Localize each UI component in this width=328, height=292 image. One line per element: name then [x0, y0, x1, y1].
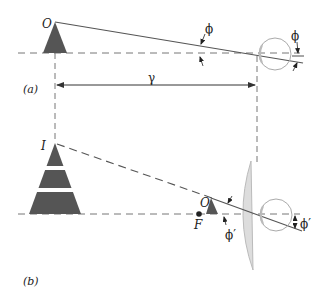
phi-prime-arrow-top-b	[228, 196, 232, 203]
phi-prime-arrow-bottom-b	[224, 217, 226, 225]
virtual-image-triangle	[25, 143, 85, 214]
phi-label-a: ϕ	[205, 22, 213, 36]
distance-label: γ	[148, 71, 155, 85]
object-label-a: O	[42, 17, 52, 31]
panel-a-label: (a)	[23, 83, 38, 96]
panel-b: I F O ϕ′ ϕ′ (b)	[18, 139, 311, 288]
focal-point	[196, 211, 202, 217]
magnifier-diagram: O ϕ ϕ γ (a) I	[0, 0, 328, 292]
panel-b-label: (b)	[23, 275, 39, 288]
magnifying-lens	[243, 161, 253, 270]
eye-icon-a	[259, 38, 291, 70]
eye-icon-b	[260, 199, 292, 231]
phi-eye-arrow-top-a	[297, 42, 298, 53]
phi-eye-arrow-bottom-a	[293, 63, 297, 71]
focal-label: F	[193, 218, 203, 232]
object-label-b: O	[200, 196, 210, 210]
image-label: I	[40, 139, 46, 153]
eye-lens-b	[261, 206, 263, 224]
panel-a: O ϕ ϕ γ (a)	[18, 17, 304, 162]
phi-prime-label-b: ϕ′	[225, 228, 236, 242]
phi-arrow-bottom-a	[200, 57, 203, 66]
phi-eye-label-a: ϕ	[291, 29, 299, 43]
eye-lens-a	[260, 45, 262, 63]
phi-prime-eye-label-b: ϕ′	[300, 217, 311, 231]
ray-a	[55, 22, 303, 63]
